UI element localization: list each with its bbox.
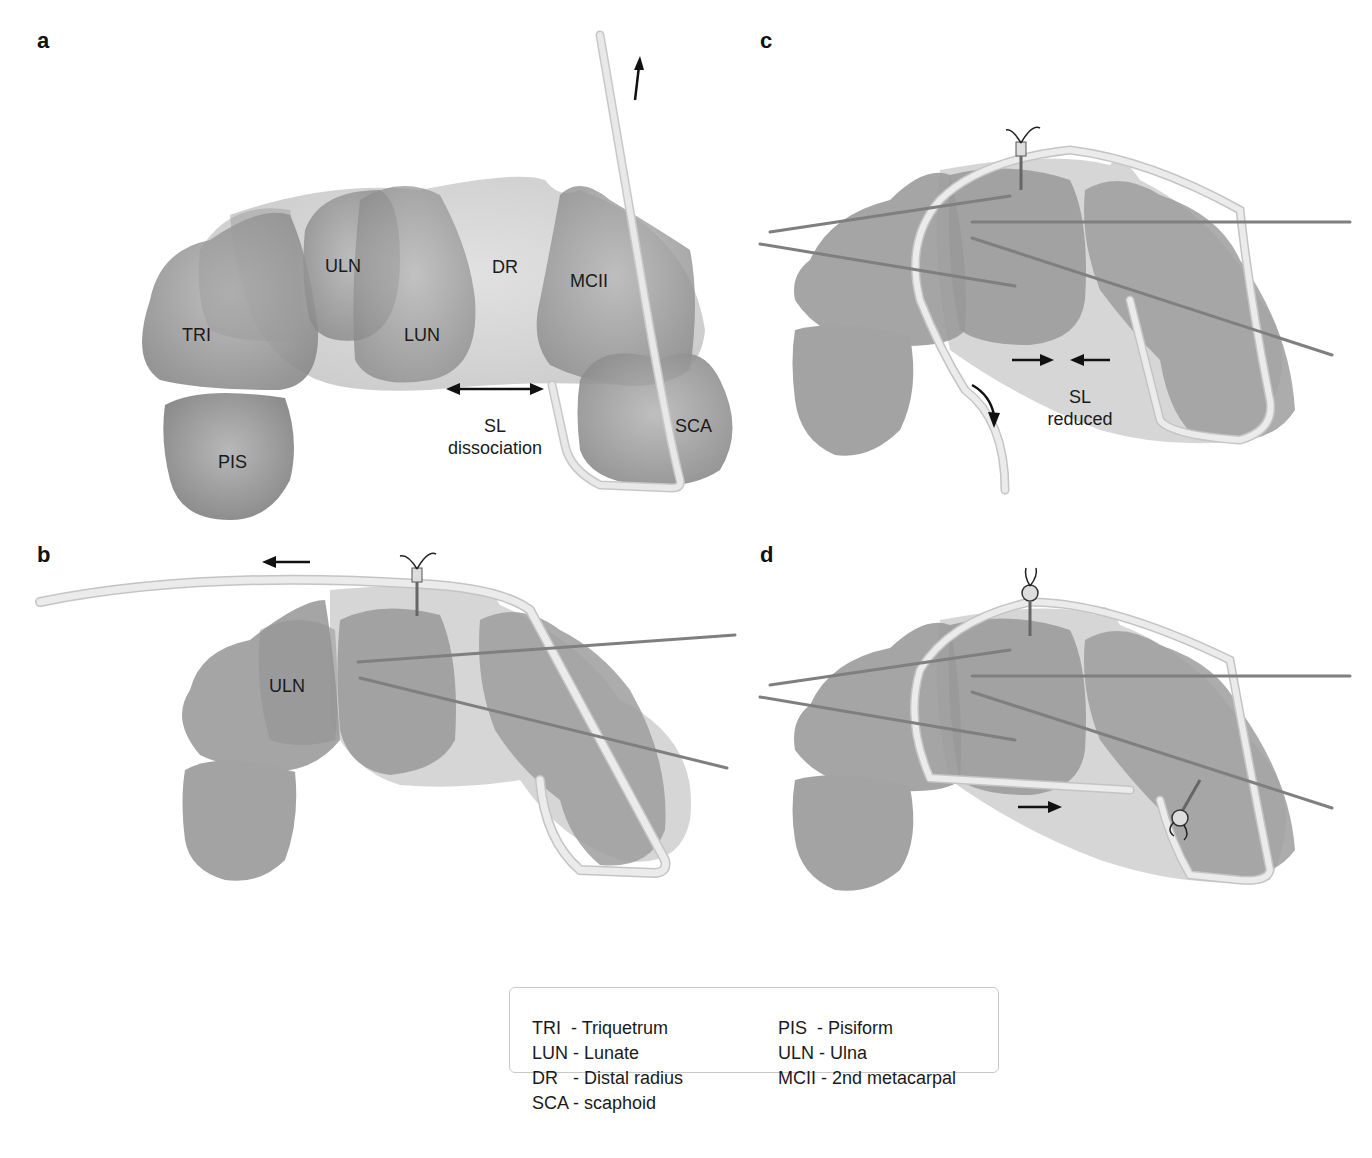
panel-a: a (0, 0, 750, 540)
label-sca: SCA (675, 415, 712, 437)
panel-b: b ULN (0, 540, 750, 920)
legend-right-column: PIS - Pisiform ULN - Ulna MCII - 2nd met… (778, 1016, 956, 1091)
label-uln: ULN (269, 675, 305, 697)
legend-left-column: TRI - Triquetrum LUN - Lunate DR - Dista… (532, 1016, 683, 1116)
panel-d: d (750, 540, 1372, 920)
pisiform-bone (793, 325, 914, 455)
legend-sep: - (816, 1068, 832, 1088)
annotation-line2: dissociation (440, 437, 550, 459)
legend-item-pis: PIS - Pisiform (778, 1016, 956, 1041)
legend-sep: - (568, 1093, 584, 1113)
pisiform-bone (183, 760, 297, 880)
legend-name: 2nd metacarpal (832, 1068, 956, 1088)
legend-sep: - (812, 1018, 828, 1038)
label-tri: TRI (182, 324, 211, 346)
legend-item-lun: LUN - Lunate (532, 1041, 683, 1066)
legend-abbr: ULN (778, 1043, 814, 1063)
legend-sep: - (568, 1068, 584, 1088)
legend-name: scaphoid (584, 1093, 656, 1113)
left-arrow-icon (262, 556, 310, 568)
pisiform-bone (793, 775, 914, 890)
annotation-line1: SL (440, 415, 550, 437)
panel-c: c (750, 0, 1372, 540)
annotation-sl-reduced: SL reduced (1030, 386, 1130, 430)
legend-sep: - (566, 1018, 582, 1038)
legend-item-sca: SCA - scaphoid (532, 1091, 683, 1116)
label-lun: LUN (404, 324, 440, 346)
legend-name: Distal radius (584, 1068, 683, 1088)
legend-name: Ulna (830, 1043, 867, 1063)
annotation-sl-dissociation: SL dissociation (440, 415, 550, 459)
legend-abbr: SCA (532, 1093, 568, 1113)
legend-sep: - (814, 1043, 830, 1063)
annotation-line2: reduced (1030, 408, 1130, 430)
panel-d-illustration (750, 540, 1372, 920)
up-arrow-icon (634, 56, 644, 100)
legend-name: Triquetrum (582, 1018, 668, 1038)
legend-box: TRI - Triquetrum LUN - Lunate DR - Dista… (509, 987, 999, 1073)
legend-name: Pisiform (828, 1018, 893, 1038)
legend-abbr: TRI (532, 1018, 566, 1038)
label-mcii: MCII (570, 270, 608, 292)
legend-abbr: LUN (532, 1043, 568, 1063)
panel-b-illustration (0, 540, 750, 920)
legend-item-mcii: MCII - 2nd metacarpal (778, 1066, 956, 1091)
legend-name: Lunate (584, 1043, 639, 1063)
label-pis: PIS (218, 451, 247, 473)
label-uln: ULN (325, 255, 361, 277)
label-dr: DR (492, 256, 518, 278)
panel-c-illustration (750, 0, 1372, 540)
legend-item-dr: DR - Distal radius (532, 1066, 683, 1091)
legend-abbr: DR (532, 1068, 568, 1088)
legend-abbr: MCII (778, 1068, 816, 1088)
legend-abbr: PIS (778, 1018, 812, 1038)
lunate-bone (949, 169, 1086, 345)
legend-sep: - (568, 1043, 584, 1063)
legend-item-uln: ULN - Ulna (778, 1041, 956, 1066)
annotation-line1: SL (1030, 386, 1130, 408)
panel-a-illustration (0, 0, 750, 540)
legend-item-tri: TRI - Triquetrum (532, 1016, 683, 1041)
lunate-bone (338, 609, 457, 775)
